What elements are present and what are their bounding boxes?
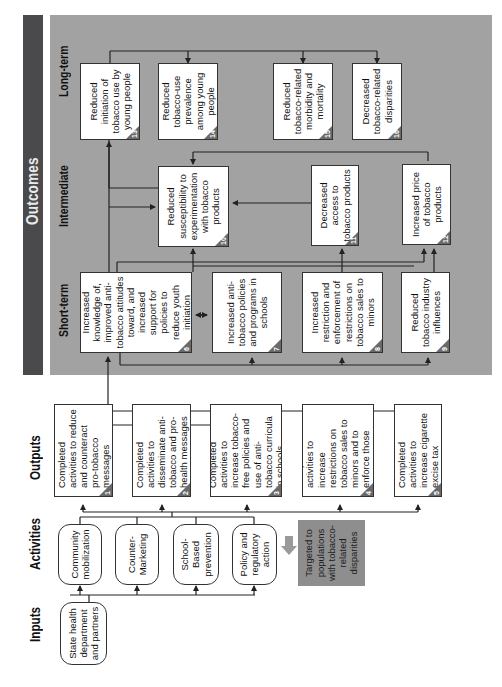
intermediate-box-12: Increased price of tobacco products 12 [402, 164, 451, 245]
targeted-note-label: Targeted to populations with tobacco-rel… [303, 523, 359, 583]
badge-number: 2 [182, 491, 190, 495]
badge-number: 6 [183, 347, 191, 351]
input-box-state-health: State health department and partners [60, 602, 107, 665]
output-box-5: Completed activities to increase cigaret… [394, 404, 442, 497]
targeted-populations-note: Targeted to populations with tobacco-rel… [298, 520, 365, 586]
badge-number: 13 [131, 130, 139, 138]
badge-number: 12 [442, 235, 450, 243]
badge-number: 15 [324, 130, 332, 138]
activity-label: School-Based prevention [179, 528, 213, 581]
long-term-box-16: Decreased tobacco-related disparities 16 [352, 63, 402, 140]
outcome-label: Reduced susceptibility to experimentatio… [165, 170, 221, 243]
activity-box-community-mobilization: Community mobilization [58, 524, 102, 585]
long-term-box-15: Reduced tobacco-related morbidity and mo… [273, 63, 333, 140]
badge-number: 16 [393, 130, 401, 138]
short-term-box-9: Reduced tobacco industry influences 9 [401, 272, 450, 353]
output-label: Completed activities to increase tobacco… [210, 408, 282, 488]
activity-label: Counter-Marketing [126, 528, 148, 581]
activity-box-policy-regulatory: Policy and regulatory action [232, 524, 277, 585]
activity-box-counter-marketing: Counter-Marketing [115, 524, 159, 585]
long-term-box-14: Reduced tobacco-use prevalence among you… [158, 63, 218, 140]
input-label: State health department and partners [67, 606, 101, 661]
badge-number: 4 [365, 491, 373, 495]
badge-number: 1 [104, 491, 112, 495]
short-term-box-8: Increased restriction and enforcement of… [302, 272, 383, 353]
activity-label: Policy and regulatory action [238, 528, 272, 581]
short-term-box-7: Increased anti-tobacco policies and prog… [212, 272, 282, 353]
badge-number: 14 [209, 130, 217, 138]
intermediate-box-11: Decreased access to tobacco products 11 [311, 165, 359, 246]
activity-label: Community mobilization [69, 528, 91, 581]
activity-box-school-based-prevention: School-Based prevention [173, 524, 219, 585]
output-box-1: Completed activities to reduce and count… [54, 404, 113, 497]
output-label: Completed activities to reduce and count… [56, 408, 112, 488]
outcome-label: Increased restriction and enforcement of… [309, 276, 376, 349]
long-term-box-13: Reduced initiation of tobacco use by you… [80, 63, 140, 140]
intermediate-box-10: Reduced susceptibility to experimentatio… [158, 166, 229, 247]
badge-number: 10 [220, 237, 228, 245]
badge-number: 8 [374, 347, 382, 351]
output-box-3: Completed activities to increase tobacco… [210, 404, 282, 497]
badge-number: 9 [441, 347, 449, 351]
badge-number: 5 [433, 491, 441, 495]
outcome-label: Increased knowledge of, improved anti-to… [80, 276, 192, 349]
badge-number: 11 [350, 237, 358, 244]
output-box-4: Completed activities to increase restric… [302, 404, 374, 497]
badge-number: 3 [273, 491, 281, 495]
outcome-label: Increased anti-tobacco policies and prog… [225, 276, 270, 349]
short-term-box-6: Increased knowledge of, improved anti-to… [80, 272, 192, 353]
output-label: Completed activities to disseminate anti… [134, 408, 190, 488]
output-box-2: Completed activities to disseminate anti… [132, 404, 191, 497]
output-label: Completed activities to increase cigaret… [396, 408, 441, 488]
badge-number: 7 [273, 347, 281, 351]
logic-model-diagram: Inputs Activities Outputs Outcomes Short… [0, 0, 502, 687]
output-label: Completed activities to increase restric… [302, 408, 374, 488]
